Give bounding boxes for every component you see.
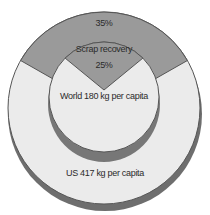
outer-pct-label: 35% [95,18,112,28]
scrap-recovery-chart: 35% Scrap recovery 25% World 180 kg per … [0,0,210,215]
scrap-recovery-label: Scrap recovery [76,44,133,54]
inner-pct-label: 25% [95,60,112,70]
world-label: World 180 kg per capita [60,91,148,101]
us-label: US 417 kg per capita [66,168,144,178]
